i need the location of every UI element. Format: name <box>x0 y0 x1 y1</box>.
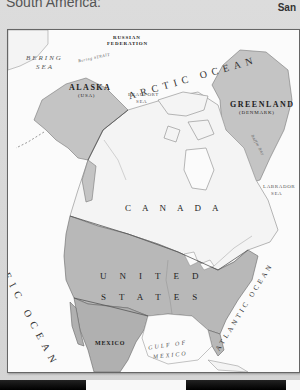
strip-black-2 <box>186 380 286 390</box>
bering-sea-label-line2: SEA <box>36 64 54 70</box>
greenland-label: GREENLAND <box>230 100 295 109</box>
map-graphic <box>8 30 299 372</box>
mexico-label: MEXICO <box>95 340 125 346</box>
page-header-right: San <box>278 2 296 13</box>
cuba <box>208 360 248 372</box>
states-label: STATES <box>101 292 210 302</box>
canada-label: CANADA <box>125 203 230 213</box>
bering-sea-label-line1: BERING <box>26 55 63 61</box>
bottom-color-strip <box>0 380 300 390</box>
strip-white-2 <box>286 380 300 390</box>
beaufort-sea-label-line2: SEA <box>136 99 147 105</box>
labrador-sea-label-line2: SEA <box>271 191 282 197</box>
russia-label-line1: RUSSIAN <box>113 35 141 40</box>
strip-black-1 <box>0 380 86 390</box>
beaufort-sea-label-line1: BEAUFORT <box>128 92 159 98</box>
alaska-sub-label: (USA) <box>78 93 95 98</box>
aleutian-islands <box>16 132 44 148</box>
united-label: UNITED <box>100 271 212 281</box>
strip-white-1 <box>86 380 186 390</box>
north-america-map: RUSSIAN FEDERATION BERING SEA Bering STR… <box>7 29 300 373</box>
greenland-sub-label: (DENMARK) <box>239 110 275 115</box>
page-header-title: South America: <box>6 0 101 10</box>
labrador-sea-label-line1: LABRADOR <box>263 184 295 190</box>
alaska-label: ALASKA <box>69 83 111 92</box>
russia-label-line2: FEDERATION <box>107 41 148 46</box>
